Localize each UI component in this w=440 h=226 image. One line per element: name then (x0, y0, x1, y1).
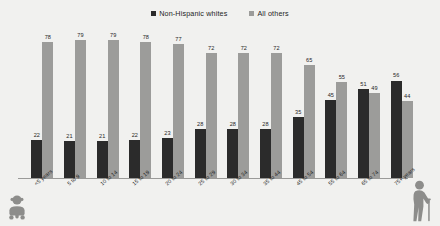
bar-all-others (140, 42, 151, 178)
bar-non-hispanic-whites (227, 129, 238, 178)
bar-value-label: 78 (45, 35, 51, 41)
bar-item: 79 (75, 30, 86, 178)
bar-item: 35 (293, 30, 304, 178)
bar-non-hispanic-whites (162, 138, 173, 178)
bar-value-label: 65 (306, 58, 312, 64)
bar-item: 78 (42, 30, 53, 178)
bar-value-label: 28 (262, 122, 268, 128)
bar-value-label: 77 (175, 37, 181, 43)
bar-group: 2377 (157, 30, 190, 178)
bar-value-label: 79 (77, 33, 83, 39)
bar-value-label: 22 (132, 133, 138, 139)
bar-value-label: 28 (230, 122, 236, 128)
bar-all-others (271, 53, 282, 178)
bar-non-hispanic-whites (31, 140, 42, 178)
bar-non-hispanic-whites (260, 129, 271, 178)
bar-group: 5644 (385, 30, 418, 178)
bar-item: 23 (162, 30, 173, 178)
bar-item: 45 (325, 30, 336, 178)
bar-value-label: 72 (241, 46, 247, 52)
bar-non-hispanic-whites (325, 100, 336, 178)
bar-item: 55 (336, 30, 347, 178)
bar-all-others (42, 42, 53, 178)
chart-legend: Non-Hispanic whites All others (0, 9, 440, 18)
bar-value-label: 35 (295, 110, 301, 116)
bar-item: 28 (260, 30, 271, 178)
bar-value-label: 28 (197, 122, 203, 128)
bar-all-others (108, 40, 119, 178)
bar-value-label: 23 (164, 131, 170, 137)
bar-non-hispanic-whites (97, 141, 108, 178)
bar-value-label: 72 (273, 46, 279, 52)
elderly-person-with-cane-icon (408, 180, 434, 222)
bar-non-hispanic-whites (391, 81, 402, 179)
plot-area: 2278217921792278237728722872287235654555… (26, 30, 418, 178)
legend-label-all-others: All others (257, 9, 288, 18)
bar-item: 28 (227, 30, 238, 178)
legend-item-all-others: All others (249, 9, 288, 18)
baby-icon (6, 194, 28, 220)
bar-group: 2179 (59, 30, 92, 178)
bar-group: 4555 (320, 30, 353, 178)
bar-item: 72 (238, 30, 249, 178)
bar-item: 21 (97, 30, 108, 178)
bar-item: 56 (391, 30, 402, 178)
bar-value-label: 22 (34, 133, 40, 139)
bar-value-label: 49 (371, 86, 377, 92)
bar-item: 72 (206, 30, 217, 178)
bar-non-hispanic-whites (293, 117, 304, 178)
bar-value-label: 56 (393, 73, 399, 79)
bar-item: 21 (64, 30, 75, 178)
bar-group: 5149 (353, 30, 386, 178)
bar-group: 2872 (255, 30, 288, 178)
bar-all-others (304, 65, 315, 178)
bar-group: 2872 (222, 30, 255, 178)
bar-group: 2179 (91, 30, 124, 178)
bar-non-hispanic-whites (129, 140, 140, 178)
legend-swatch-dark (151, 11, 156, 16)
bar-all-others (238, 53, 249, 178)
bar-item: 72 (271, 30, 282, 178)
bar-item: 78 (140, 30, 151, 178)
bar-value-label: 21 (99, 134, 105, 140)
bar-value-label: 79 (110, 33, 116, 39)
bar-group: 2278 (26, 30, 59, 178)
bar-group: 2278 (124, 30, 157, 178)
bar-value-label: 72 (208, 46, 214, 52)
bar-value-label: 44 (404, 94, 410, 100)
bar-item: 49 (369, 30, 380, 178)
bar-group: 3565 (287, 30, 320, 178)
bar-value-label: 78 (143, 35, 149, 41)
bar-all-others (173, 44, 184, 178)
bar-item: 77 (173, 30, 184, 178)
bar-value-label: 45 (328, 93, 334, 99)
bar-item: 65 (304, 30, 315, 178)
bar-item: 22 (129, 30, 140, 178)
bar-non-hispanic-whites (64, 141, 75, 178)
age-distribution-bar-chart: Non-Hispanic whites All others 227821792… (0, 0, 440, 226)
bar-item: 28 (195, 30, 206, 178)
legend-label-non-hispanic-whites: Non-Hispanic whites (159, 9, 227, 18)
bar-value-label: 55 (339, 75, 345, 81)
bar-all-others (75, 40, 86, 178)
bar-all-others (206, 53, 217, 178)
bar-value-label: 21 (66, 134, 72, 140)
bar-item: 22 (31, 30, 42, 178)
bar-all-others (336, 82, 347, 178)
x-axis-labels: <5 years5 to 910 to 1415 to 1920 to 2425… (26, 180, 418, 226)
bar-non-hispanic-whites (358, 89, 369, 178)
bar-non-hispanic-whites (195, 129, 206, 178)
bar-group: 2872 (189, 30, 222, 178)
legend-item-non-hispanic-whites: Non-Hispanic whites (151, 9, 227, 18)
legend-swatch-gray (249, 11, 254, 16)
bar-item: 79 (108, 30, 119, 178)
bar-item: 51 (358, 30, 369, 178)
bar-item: 44 (402, 30, 413, 178)
bar-all-others (369, 93, 380, 178)
bar-value-label: 51 (360, 82, 366, 88)
